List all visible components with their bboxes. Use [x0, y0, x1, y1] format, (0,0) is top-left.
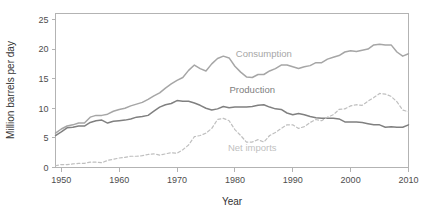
series-label-consumption: Consumption — [236, 48, 292, 59]
x-axis-ticks: 1950196019701980199020002010 — [51, 168, 418, 185]
y-tick-label: 15 — [38, 74, 48, 84]
chart-container: 0510152025 1950196019701980199020002010 … — [0, 0, 429, 212]
series-label-net-imports: Net imports — [228, 142, 277, 153]
x-axis-title: Year — [222, 196, 243, 207]
x-tick-label: 1990 — [283, 175, 303, 185]
y-tick-label: 0 — [43, 163, 48, 173]
x-tick-label: 1970 — [167, 175, 187, 185]
y-tick-label: 10 — [38, 104, 48, 114]
y-axis-ticks: 0510152025 — [38, 15, 55, 173]
x-tick-label: 2010 — [398, 175, 418, 185]
series-label-production: Production — [230, 84, 275, 95]
series-line-net-imports — [56, 93, 409, 165]
x-tick-label: 1980 — [225, 175, 245, 185]
y-tick-label: 25 — [38, 15, 48, 25]
series-annotations: ConsumptionProductionNet imports — [228, 48, 292, 153]
y-axis-title: Million barrels per day — [5, 41, 16, 139]
x-tick-label: 1960 — [109, 175, 129, 185]
line-chart: 0510152025 1950196019701980199020002010 … — [0, 0, 429, 212]
x-tick-label: 1950 — [51, 175, 71, 185]
y-tick-label: 20 — [38, 44, 48, 54]
y-tick-label: 5 — [43, 133, 48, 143]
x-tick-label: 2000 — [341, 175, 361, 185]
series-line-production — [56, 101, 409, 136]
